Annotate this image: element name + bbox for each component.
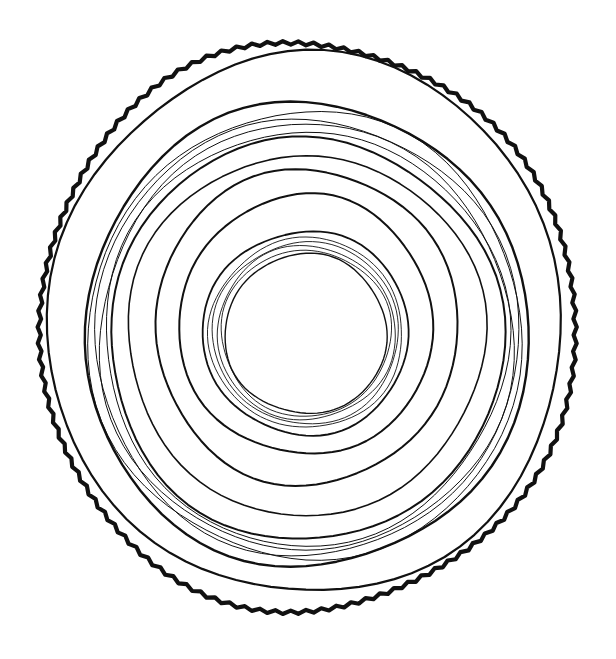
growth-ring [212, 242, 398, 424]
growth-ring [95, 119, 519, 556]
growth-ring [156, 169, 458, 486]
growth-ring [225, 253, 387, 413]
bark-ring [38, 41, 577, 614]
growth-ring [217, 246, 395, 420]
tree-rings-illustration [0, 0, 616, 659]
growth-ring [111, 136, 505, 538]
growth-ring [85, 102, 529, 567]
growth-ring [203, 231, 409, 436]
growth-ring [47, 50, 561, 590]
growth-ring [221, 250, 391, 416]
